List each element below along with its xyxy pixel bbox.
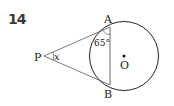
label-a: A — [103, 13, 113, 26]
label-p: P — [34, 51, 42, 64]
tangent-circle-diagram: A B P O x 65° — [0, 0, 174, 106]
label-o: O — [120, 59, 129, 72]
angle-arc-a — [103, 30, 110, 34]
angle-65-label: 65° — [94, 38, 110, 48]
angle-x-label: x — [54, 51, 60, 62]
label-b: B — [104, 88, 112, 101]
center-dot — [123, 55, 126, 58]
